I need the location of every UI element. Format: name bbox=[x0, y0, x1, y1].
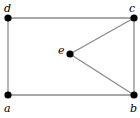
vertex-label-a: a bbox=[4, 102, 11, 115]
vertex-label-e: e bbox=[58, 44, 65, 57]
vertex-a bbox=[4, 91, 11, 98]
edge-e-b bbox=[70, 54, 134, 95]
edge-c-e bbox=[70, 18, 134, 54]
vertex-label-c: c bbox=[129, 2, 135, 15]
vertex-b bbox=[130, 91, 137, 98]
labels-group: dceab bbox=[4, 2, 137, 115]
graph-diagram: dceab bbox=[0, 0, 140, 118]
vertex-d bbox=[4, 14, 11, 21]
vertex-c bbox=[130, 14, 137, 21]
vertex-label-d: d bbox=[4, 2, 11, 15]
vertex-e bbox=[66, 50, 73, 57]
vertex-label-b: b bbox=[130, 102, 137, 115]
